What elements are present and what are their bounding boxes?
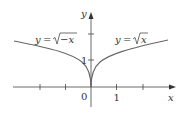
origin-label: 0 xyxy=(81,91,87,102)
y-axis-label: y xyxy=(80,8,87,19)
chart-canvas: x y 0 1 1 y = −x y = x xyxy=(0,0,183,113)
svg-text:=: = xyxy=(43,34,51,45)
x-axis-arrow-icon xyxy=(169,85,176,90)
svg-text:y: y xyxy=(34,34,41,45)
curve-sqrt-x xyxy=(91,40,168,87)
svg-text:y: y xyxy=(114,34,121,45)
x-axis-label: x xyxy=(168,92,174,103)
x-tick-label-1: 1 xyxy=(114,92,120,103)
right-equation-label: y = x xyxy=(114,33,148,45)
curve-sqrt-neg-x xyxy=(14,41,91,87)
svg-text:x: x xyxy=(141,34,147,45)
left-equation-label: y = −x xyxy=(34,33,77,45)
svg-text:−x: −x xyxy=(60,34,74,45)
y-axis-arrow-icon xyxy=(89,12,94,19)
y-tick-label-1: 1 xyxy=(81,55,87,66)
svg-text:=: = xyxy=(123,34,131,45)
